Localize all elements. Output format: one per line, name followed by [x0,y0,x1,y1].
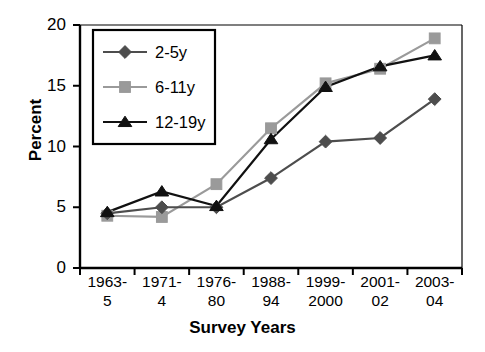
data-point-2-5y [319,135,332,148]
data-point-6-11y [211,179,222,190]
legend-marker-6-11y [120,82,131,93]
data-point-12-19y [428,50,442,60]
x-tick-label-line: 2003- [402,272,468,291]
data-point-6-11y [266,123,277,134]
x-tick-label-line: 04 [402,291,468,310]
data-point-12-19y [155,186,169,196]
legend-label-6-11y: 6-11y [155,78,196,96]
data-point-6-11y [429,33,440,44]
data-point-2-5y [265,172,278,185]
x-axis-title: Survey Years [0,318,485,338]
x-tick-label: 2003-04 [402,272,468,310]
legend-label-2-5y: 2-5y [155,43,188,61]
chart-container: Percent 05101520 2-5y6-11y12-19y 1963-51… [0,0,485,352]
legend-label-12-19y: 12-19y [155,113,206,131]
